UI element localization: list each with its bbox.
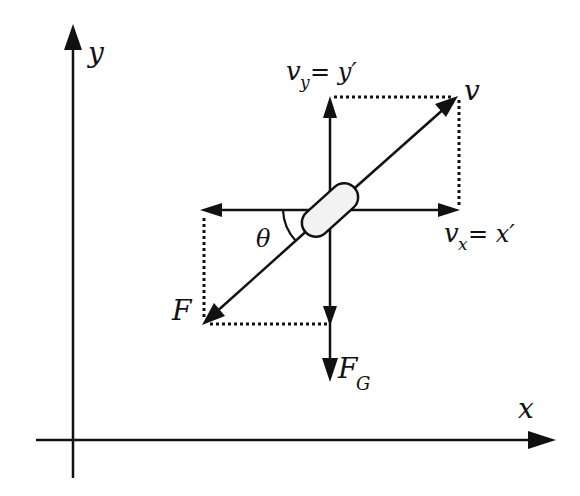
theta-arc [283, 210, 296, 241]
y-axis [64, 24, 82, 478]
physics-diagram: y x v y = y′ v v x = x′ θ F F G [0, 0, 580, 496]
f-label: F [171, 294, 193, 327]
svg-text:x: x [458, 234, 468, 254]
v-label: v [464, 74, 480, 107]
x-axis-arrowhead-icon [528, 431, 556, 449]
svg-text:v: v [286, 56, 301, 86]
v-x-arrow [345, 203, 460, 217]
svg-text:y: y [299, 72, 310, 92]
diagram-canvas: y x v y = y′ v v x = x′ θ F F G [0, 0, 580, 496]
x-axis [36, 431, 556, 449]
y-axis-label: y [86, 36, 105, 69]
svg-text:G: G [356, 373, 370, 394]
theta-label: θ [256, 225, 271, 253]
svg-text:v: v [444, 218, 459, 248]
v-y-arrow [323, 96, 337, 200]
svg-text:= y′: = y′ [310, 58, 357, 86]
y-axis-arrowhead-icon [64, 24, 82, 50]
svg-text:= x′: = x′ [468, 220, 515, 248]
f-g-arrow [322, 225, 338, 382]
v-x-label: v x = x′ [444, 218, 515, 254]
f-x-arrow [200, 203, 315, 217]
v-y-label: v y = y′ [286, 56, 357, 92]
f-g-label: F G [337, 352, 370, 394]
x-axis-label: x [518, 392, 534, 425]
